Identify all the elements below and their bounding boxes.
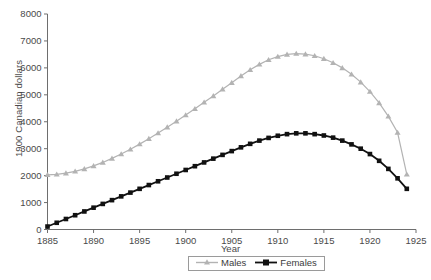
- data-point-marker: [137, 141, 143, 146]
- data-point-marker: [82, 209, 87, 214]
- y-tick-label: 2000: [20, 170, 41, 181]
- y-tick-label: 5000: [20, 89, 41, 100]
- y-tick-label: 7000: [20, 35, 41, 46]
- data-point-marker: [118, 151, 124, 156]
- data-point-marker: [165, 175, 170, 180]
- y-tick-label: 6000: [20, 62, 41, 73]
- data-point-marker: [266, 136, 271, 141]
- data-point-marker: [256, 62, 262, 67]
- data-point-marker: [193, 164, 198, 169]
- legend-label-males: Males: [221, 258, 246, 268]
- legend-swatch-males-icon: [196, 258, 218, 267]
- data-point-marker: [220, 153, 225, 158]
- data-point-marker: [183, 168, 188, 173]
- data-point-marker: [128, 190, 133, 195]
- data-point-marker: [54, 220, 59, 225]
- data-point-marker: [174, 171, 179, 176]
- data-series-females: [45, 131, 409, 229]
- y-tick-label: 0: [36, 224, 41, 235]
- data-point-marker: [45, 224, 50, 229]
- data-point-marker: [257, 138, 262, 143]
- data-point-marker: [202, 160, 207, 165]
- y-tick-label: 3000: [20, 143, 41, 154]
- data-point-marker: [110, 198, 115, 203]
- data-point-marker: [386, 167, 391, 172]
- legend-swatch-females-icon: [255, 258, 277, 267]
- data-point-marker: [395, 176, 400, 181]
- data-point-marker: [146, 136, 152, 141]
- y-tick-label: 4000: [20, 116, 41, 127]
- axes: [48, 14, 417, 230]
- y-tick-label: 8000: [20, 8, 41, 19]
- legend-item-females[interactable]: Females: [255, 258, 316, 268]
- x-axis-label: Year: [45, 243, 416, 254]
- chart-figure: 1900 Canadian dollars 010002000300040005…: [0, 0, 431, 280]
- data-point-marker: [395, 130, 401, 135]
- data-point-marker: [247, 67, 253, 72]
- data-point-marker: [340, 138, 345, 143]
- data-point-marker: [127, 146, 133, 151]
- data-point-marker: [404, 187, 409, 192]
- chart-plot-area: 010002000300040005000600070008000 188518…: [0, 0, 431, 280]
- data-point-marker: [339, 65, 345, 70]
- data-point-marker: [239, 145, 244, 150]
- data-point-marker: [303, 131, 308, 136]
- data-point-marker: [377, 159, 382, 164]
- data-point-marker: [211, 156, 216, 161]
- data-point-marker: [358, 146, 363, 151]
- data-point-marker: [100, 202, 105, 207]
- data-point-marker: [322, 133, 327, 138]
- data-point-marker: [137, 187, 142, 192]
- data-point-marker: [404, 171, 410, 176]
- data-point-marker: [73, 213, 78, 218]
- data-point-marker: [155, 130, 161, 135]
- data-point-marker: [276, 133, 281, 138]
- series-line: [48, 54, 407, 175]
- data-point-marker: [91, 205, 96, 210]
- data-point-marker: [312, 132, 317, 137]
- y-tick-label: 1000: [20, 197, 41, 208]
- data-point-marker: [119, 194, 124, 199]
- data-point-marker: [248, 142, 253, 147]
- legend-item-males[interactable]: Males: [196, 258, 246, 268]
- data-point-marker: [147, 183, 152, 188]
- chart-legend: Males Females: [188, 256, 325, 271]
- data-point-marker: [285, 132, 290, 137]
- data-point-marker: [229, 149, 234, 154]
- data-point-marker: [164, 124, 170, 129]
- data-point-marker: [368, 152, 373, 157]
- data-point-marker: [64, 217, 69, 222]
- data-series-males: [45, 51, 410, 177]
- y-axis-ticks: 010002000300040005000600070008000: [20, 8, 47, 235]
- data-point-marker: [331, 135, 336, 140]
- data-point-marker: [294, 131, 299, 136]
- data-point-marker: [156, 179, 161, 184]
- data-point-marker: [109, 156, 115, 161]
- legend-label-females: Females: [280, 258, 316, 268]
- series-line: [48, 133, 407, 226]
- data-point-marker: [349, 142, 354, 147]
- data-series-group: [45, 51, 410, 229]
